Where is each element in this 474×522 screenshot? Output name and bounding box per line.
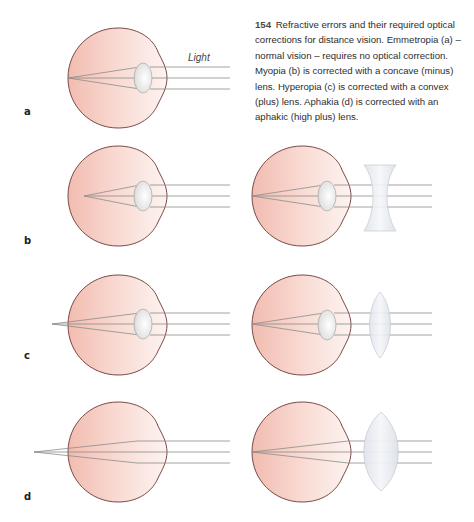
panel-a-emmetropia — [68, 28, 230, 128]
aphakic-high-plus-lens — [364, 412, 399, 491]
panel-b-myopia-uncorrected — [68, 146, 230, 246]
crystalline-lens-c-left — [134, 309, 152, 339]
panel-b-myopia-corrected — [252, 146, 432, 246]
panel-d-aphakia-uncorrected — [34, 402, 230, 502]
panel-label-d: d — [24, 491, 31, 502]
crystalline-lens-c-right — [318, 310, 336, 340]
panel-c-hyperopia-corrected — [252, 275, 432, 375]
crystalline-lens-a — [134, 63, 152, 93]
figure-number: 154 — [255, 19, 271, 30]
panel-label-a: a — [24, 106, 31, 117]
caption-text: Refractive errors and their required opt… — [255, 19, 461, 122]
refractive-errors-figure: 154 Refractive errors and their required… — [0, 0, 474, 522]
crystalline-lens-b-left — [134, 181, 152, 211]
panel-c-hyperopia-uncorrected — [52, 275, 230, 375]
panel-d-aphakia-corrected — [252, 402, 432, 502]
crystalline-lens-b-right — [318, 181, 336, 211]
convex-lens — [370, 292, 391, 358]
panel-label-b: b — [24, 235, 31, 246]
figure-caption: 154 Refractive errors and their required… — [255, 17, 471, 125]
light-label: Light — [188, 52, 210, 63]
concave-lens — [364, 165, 396, 231]
panel-label-c: c — [24, 350, 30, 361]
